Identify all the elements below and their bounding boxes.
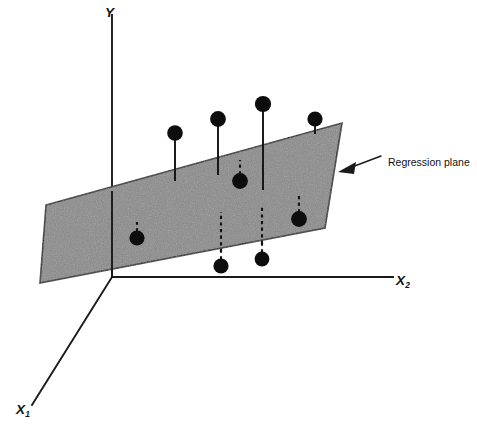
regression-plane-label: Regression plane <box>388 157 470 168</box>
arrow-head-icon <box>338 162 356 174</box>
figure-canvas <box>0 0 477 434</box>
regression-plane-figure: Y X2 X1 Regression plane <box>0 0 477 434</box>
x2-axis-label-text: X <box>396 273 405 288</box>
y-axis-label: Y <box>105 6 114 20</box>
data-point-p6 <box>291 211 307 227</box>
data-point-p4 <box>307 111 322 126</box>
data-point-p2 <box>210 111 226 127</box>
x1-axis-label-text: X <box>16 402 25 417</box>
data-point-p3 <box>255 96 271 112</box>
x1-axis-label: X1 <box>16 403 30 417</box>
x2-axis-label-subscript: 2 <box>405 280 410 290</box>
callout-leader-line <box>352 156 381 167</box>
x1-axis-line <box>32 277 112 405</box>
data-point-p9 <box>255 252 270 267</box>
x2-axis-label: X2 <box>396 274 410 288</box>
data-points-below-plane <box>213 252 269 274</box>
data-point-p7 <box>129 230 144 245</box>
y-axis-label-text: Y <box>105 5 114 20</box>
data-point-p5 <box>232 173 248 189</box>
data-point-p8 <box>213 258 228 273</box>
x1-axis-label-subscript: 1 <box>25 409 30 419</box>
data-point-p1 <box>167 125 183 141</box>
regression-plane <box>40 123 342 283</box>
regression-plane-callout-arrow <box>338 156 381 174</box>
